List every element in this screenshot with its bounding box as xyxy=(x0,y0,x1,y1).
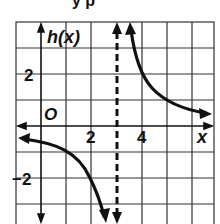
x-axis-left-arrow-icon xyxy=(18,123,26,129)
left-branch-arrow-icon xyxy=(18,133,30,144)
x-tick-2: 2 xyxy=(86,128,95,147)
right-branch-arrow-icon xyxy=(199,108,212,119)
function-graph: y p h(x) x xyxy=(0,0,220,224)
vertical-asymptote xyxy=(112,22,122,224)
y-tick-neg2: −2 xyxy=(12,170,31,189)
x-tick-4: 4 xyxy=(137,128,147,147)
header-fragment: y p xyxy=(72,0,95,9)
y-tick-2: 2 xyxy=(24,66,33,85)
y-axis-up-arrow-icon xyxy=(38,24,44,32)
asymptote-up-arrow-icon xyxy=(112,22,122,34)
asymptote-down-arrow-icon xyxy=(112,212,122,224)
origin-label: O xyxy=(44,105,57,124)
right-branch-up-arrow-icon xyxy=(125,22,136,35)
y-axis-label: h(x) xyxy=(47,27,80,47)
x-axis-label: x xyxy=(196,127,208,147)
left-branch-down-arrow-icon xyxy=(99,208,110,223)
y-axis-down-arrow-icon xyxy=(38,214,44,222)
